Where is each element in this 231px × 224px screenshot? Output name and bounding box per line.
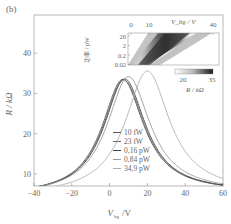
- legend-label: 0,16 pW: [124, 146, 151, 155]
- svg-text:/V: /V: [122, 208, 132, 218]
- inset-heatmap: 2020.20.02 01040 V_bg / V 功率 / pW 20 35 …: [83, 18, 219, 94]
- y-tick-label: 10: [23, 170, 31, 179]
- panel-label: (b): [6, 4, 17, 14]
- x-tick-label: −20: [66, 189, 79, 198]
- inset-y-tick: 0.02: [115, 61, 126, 68]
- inset-x-tick: 40: [210, 21, 218, 29]
- chart-figure: (b) 10203040 −40−200204060 R / kΩ V bg /…: [0, 0, 231, 224]
- x-tick-label: 40: [181, 189, 189, 198]
- legend-label: 10 fW: [124, 128, 144, 137]
- inset-y-tick: 20: [120, 33, 127, 40]
- x-axis: −40−200204060: [28, 183, 227, 198]
- legend-label: 34,9 pW: [124, 164, 151, 173]
- x-tick-label: 60: [219, 189, 227, 198]
- colorbar-tick-max: 35: [209, 76, 217, 84]
- y-axis: 10203040: [23, 49, 37, 179]
- legend-label: 23 fW: [124, 137, 144, 146]
- x-tick-label: −40: [28, 189, 41, 198]
- inset-y-label: 功率 / pW: [83, 37, 91, 63]
- inset-x-tick: 0: [129, 21, 133, 29]
- inset-x-label: V_bg / V: [171, 18, 196, 26]
- x-tick-label: 20: [143, 189, 151, 198]
- y-tick-label: 30: [23, 89, 31, 98]
- svg-text:bg: bg: [114, 214, 120, 219]
- legend: 10 fW23 fW0,16 pW0,84 pW34,9 pW: [113, 128, 151, 173]
- legend-label: 0,84 pW: [124, 155, 151, 164]
- x-tick-label: 0: [108, 189, 112, 198]
- colorbar-label: R / kΩ: [185, 86, 204, 94]
- inset-y-tick: 2: [123, 42, 126, 49]
- y-tick-label: 20: [23, 130, 31, 139]
- y-axis-label: R / kΩ: [4, 92, 14, 116]
- inset-x-tick: 10: [146, 21, 154, 29]
- colorbar: [175, 69, 213, 74]
- colorbar-tick-min: 20: [180, 76, 188, 84]
- inset-y-tick: 0.2: [118, 52, 126, 59]
- y-tick-label: 40: [23, 49, 31, 58]
- x-axis-label: V bg /V: [108, 208, 132, 219]
